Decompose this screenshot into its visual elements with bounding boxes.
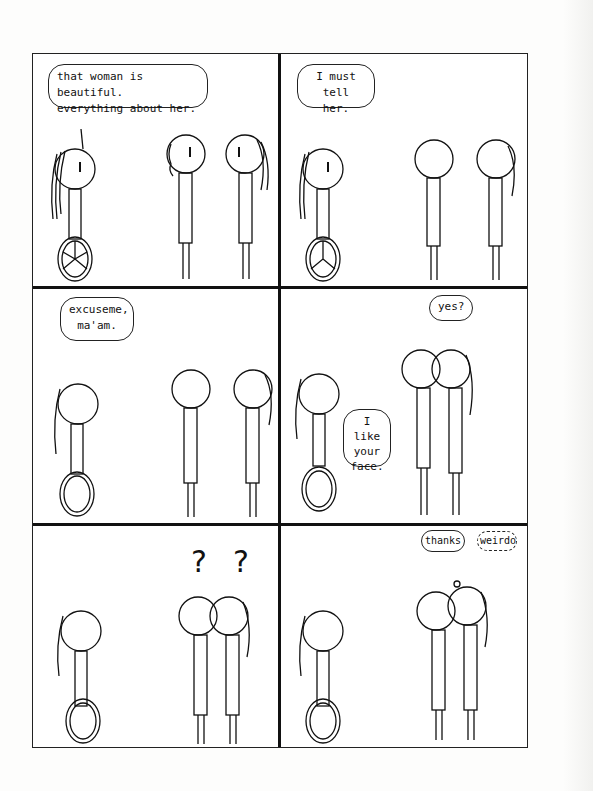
speech-bubble: excuseme, ma'am. (60, 297, 134, 341)
comic-strip: that woman is beautiful. everything abou… (32, 53, 528, 748)
speech-bubble: I must tell her. (297, 64, 375, 108)
panel-3: excuseme, ma'am. (33, 289, 278, 523)
panel-2: I must tell her. (281, 54, 529, 286)
speech-bubble: I like your face. (343, 409, 391, 467)
panel-4-drawing (281, 289, 529, 523)
question-mark-symbol: ? (191, 544, 207, 579)
speech-bubble: yes? (429, 295, 473, 321)
speech-bubble: thanks (421, 530, 465, 552)
page-edge-shadow (563, 0, 593, 791)
panel-4: yes? I like your face. (281, 289, 529, 523)
thought-bubble: weirdo (477, 531, 517, 551)
question-mark-symbol: ? (233, 544, 249, 579)
panel-5: ? ? (33, 526, 278, 749)
panel-6-drawing (281, 526, 529, 749)
speech-bubble: that woman is beautiful. everything abou… (48, 64, 208, 108)
panel-6: thanks weirdo (281, 526, 529, 749)
panel-1: that woman is beautiful. everything abou… (33, 54, 278, 286)
